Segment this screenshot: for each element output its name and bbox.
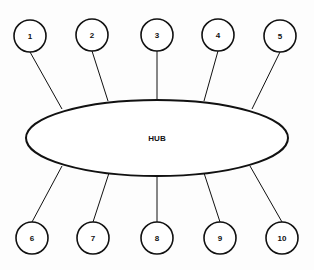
link-hub-node-2 [92,51,108,101]
node-label: 1 [28,32,33,41]
node-label: 6 [30,234,35,243]
node-label: 10 [278,234,287,243]
node-4: 4 [202,19,234,51]
link-hub-node-7 [93,173,109,222]
node-9: 9 [204,222,236,254]
node-8: 8 [141,222,173,254]
link-hub-node-4 [204,51,218,101]
hub-node: HUB [26,100,288,176]
link-hub-node-1 [30,52,62,109]
node-label: 8 [155,234,160,243]
node-3: 3 [141,19,173,51]
node-label: 4 [216,31,221,40]
link-hub-node-6 [32,166,62,222]
link-hub-node-10 [250,166,282,222]
diagram-canvas: HUB 12345678910 [0,0,314,270]
node-1: 1 [14,20,46,52]
node-label: 5 [278,32,283,41]
node-10: 10 [266,222,298,254]
hub-label: HUB [148,134,166,143]
node-label: 3 [155,31,160,40]
node-6: 6 [16,222,48,254]
link-hub-node-5 [252,52,280,109]
node-7: 7 [77,222,109,254]
hub-diagram: HUB 12345678910 [0,0,314,270]
node-label: 7 [91,234,96,243]
node-5: 5 [264,20,296,52]
node-2: 2 [76,19,108,51]
link-hub-node-9 [204,173,220,222]
node-label: 2 [90,31,95,40]
node-label: 9 [218,234,223,243]
